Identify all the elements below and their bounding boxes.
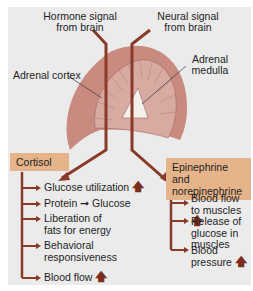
effect-blood-flow: Blood flow 🡅 (44, 272, 107, 284)
adrenal-cortex-label: Adrenal cortex (13, 70, 81, 81)
up-arrow-icon: 🡅 (235, 255, 247, 269)
neural-signal-label: Neural signalfrom brain (138, 11, 238, 33)
effect-liberation-fats: Liberation of fats for energy (44, 213, 114, 236)
up-arrow-icon: 🡅 (95, 270, 107, 284)
adrenal-medulla-label: Adrenalmedulla (180, 54, 240, 76)
effect-protein-glucose: Protein ➞ Glucose (44, 198, 131, 210)
effect-glucose-utilization: Glucose utilization 🡅 (44, 182, 144, 194)
effect-blood-pressure: Blood pressure 🡅 (191, 245, 249, 268)
effect-behavioral-responsiveness: Behavioral responsiveness (44, 240, 114, 263)
hormone-signal-label: Hormone signalfrom brain (30, 11, 130, 33)
up-arrow-icon: 🡅 (132, 180, 144, 194)
cortisol-box: Cortisol (10, 153, 69, 171)
